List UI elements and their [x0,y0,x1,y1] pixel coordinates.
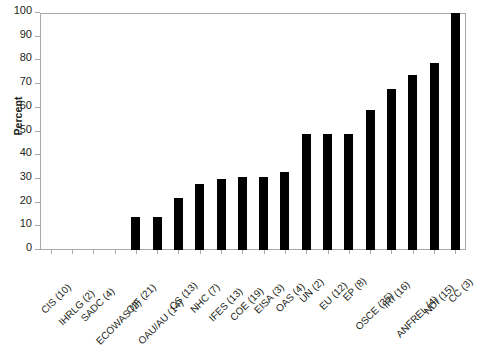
bar[interactable] [131,217,140,250]
y-tick-label: 20 [20,195,32,206]
bar[interactable] [259,177,268,250]
bar[interactable] [344,134,353,250]
x-tick-mark [221,250,222,254]
x-tick-mark [285,250,286,254]
bar[interactable] [238,177,247,250]
bar[interactable] [302,134,311,250]
y-tick-label: 0 [26,242,32,253]
bar[interactable] [408,75,417,250]
bar[interactable] [174,198,183,250]
y-tick-label: 50 [20,124,32,135]
y-tick-label: 60 [20,100,32,111]
y-tick-label: 100 [14,5,32,16]
x-tick-label: OIF (21) [124,282,157,315]
x-tick-mark [200,250,201,254]
bar[interactable] [366,110,375,250]
x-tick-mark [51,250,52,254]
bar[interactable] [195,184,204,250]
x-tick-mark [306,250,307,254]
x-tick-mark [455,250,456,254]
x-tick-mark [413,250,414,254]
x-tick-mark [264,250,265,254]
x-tick-mark [370,250,371,254]
y-tick-label: 40 [20,147,32,158]
x-tick-mark [178,250,179,254]
x-tick-label: CC (3) [447,277,475,305]
x-tick-mark [349,250,350,254]
y-tick-label: 30 [20,171,32,182]
x-tick-label: EP (8) [341,276,368,303]
bar[interactable] [217,179,226,250]
bar[interactable] [387,89,396,250]
x-tick-mark [242,250,243,254]
y-tick-label: 70 [20,76,32,87]
x-tick-mark [157,250,158,254]
x-tick-mark [72,250,73,254]
x-tick-label: IRI (16) [382,280,413,311]
y-tick-label: 80 [20,52,32,63]
bar[interactable] [430,63,439,250]
x-tick-mark [136,250,137,254]
x-tick-mark [115,250,116,254]
bar[interactable] [153,217,162,250]
x-tick-mark [434,250,435,254]
x-tick-mark [328,250,329,254]
bars-group [40,13,466,250]
x-tick-mark [93,250,94,254]
y-axis-title: Percent [12,76,24,156]
y-tick-label: 90 [20,29,32,40]
bar[interactable] [280,172,289,250]
x-tick-mark [391,250,392,254]
bar[interactable] [323,134,332,250]
bar[interactable] [451,13,460,250]
y-tick-label: 10 [20,218,32,229]
